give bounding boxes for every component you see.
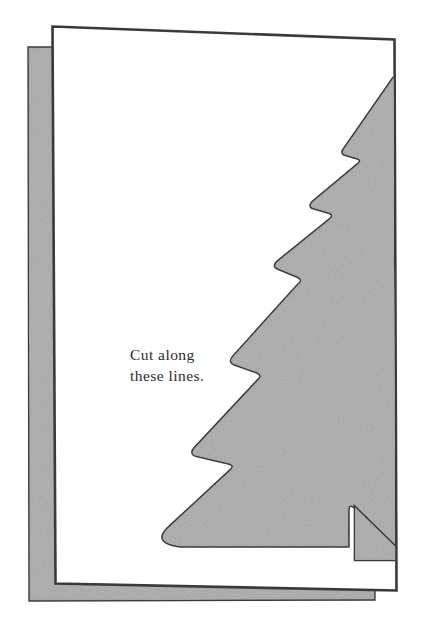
front-panel <box>53 27 397 591</box>
instruction-label: Cut along these lines. <box>130 344 240 386</box>
card-template-illustration <box>0 0 421 628</box>
figure-root: Cut along these lines. <box>0 0 421 628</box>
